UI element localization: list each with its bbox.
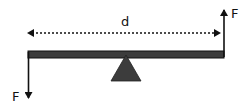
force-right-label: F xyxy=(231,6,238,21)
distance-dimension: d xyxy=(32,14,220,33)
force-left-label: F xyxy=(12,89,19,104)
force-right: F xyxy=(224,6,238,57)
fulcrum-triangle xyxy=(111,55,141,81)
force-left: F xyxy=(12,52,29,104)
distance-label: d xyxy=(121,14,129,29)
lever-diagram: d F F xyxy=(0,0,252,110)
